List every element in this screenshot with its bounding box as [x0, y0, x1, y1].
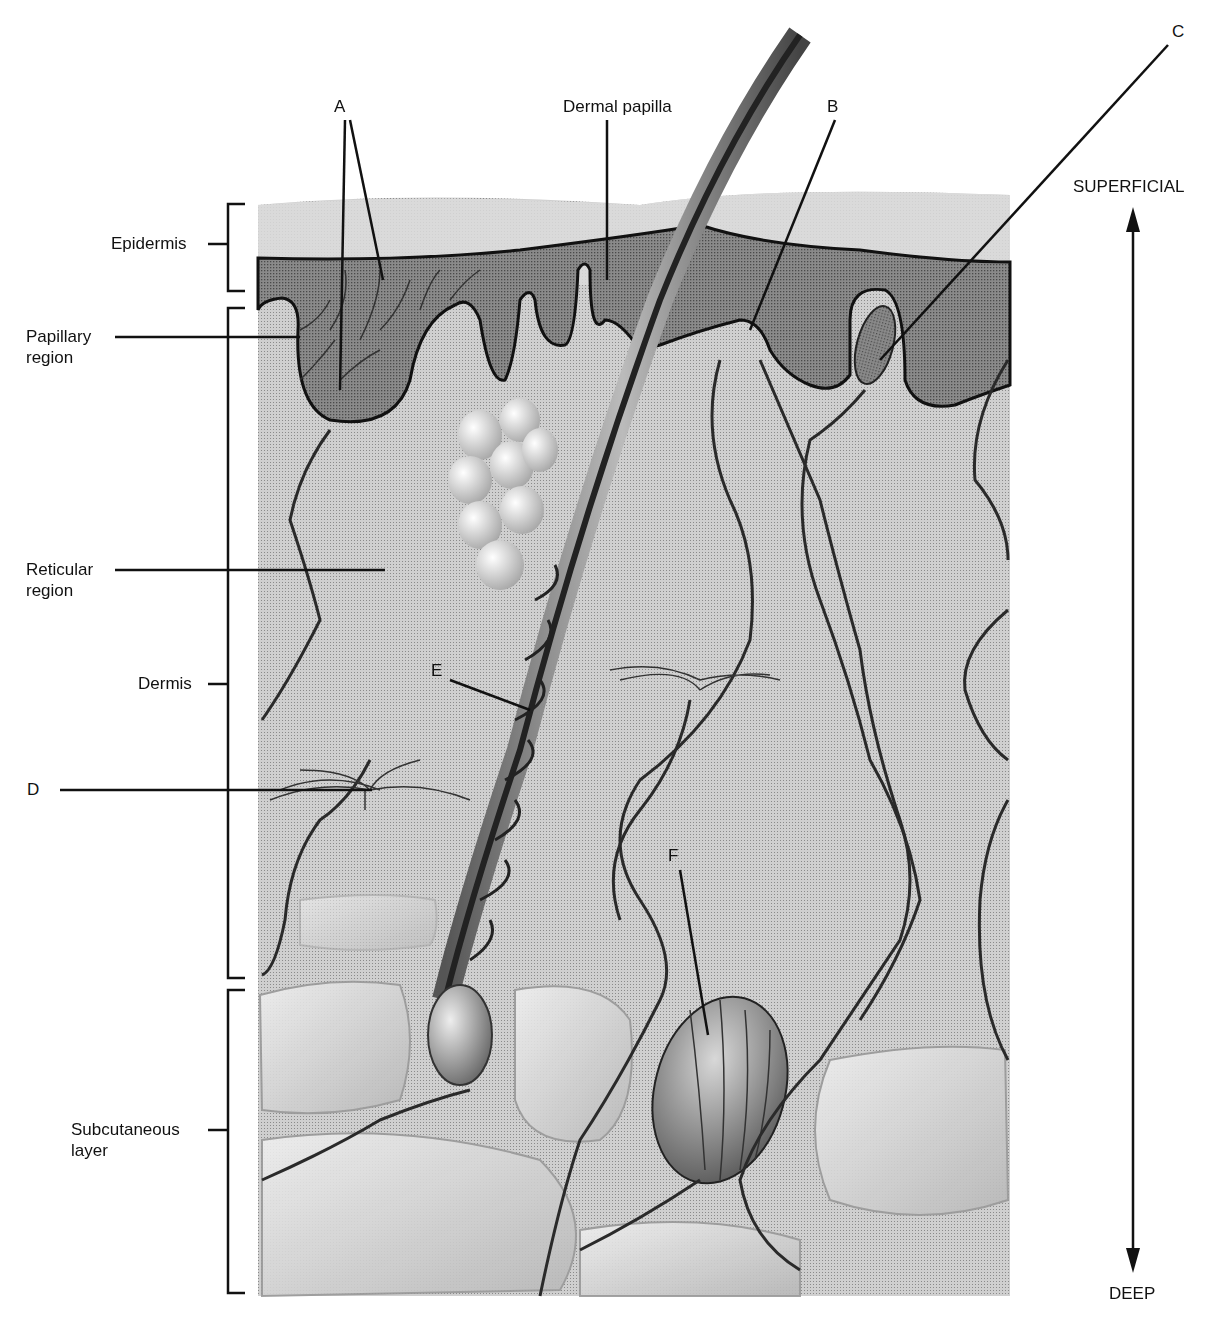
skin-illustration: [0, 0, 1230, 1323]
label-reticular-region: Reticular region: [26, 559, 93, 601]
label-d: D: [27, 780, 39, 800]
label-dermal-papilla: Dermal papilla: [563, 96, 672, 117]
label-f: F: [668, 846, 678, 866]
label-subcutaneous-layer: Subcutaneous layer: [71, 1119, 180, 1161]
label-deep: DEEP: [1109, 1283, 1155, 1304]
label-b: B: [827, 97, 838, 117]
label-e: E: [431, 661, 442, 681]
label-a: A: [334, 97, 345, 117]
label-dermis: Dermis: [138, 673, 192, 694]
label-papillary-region: Papillary region: [26, 326, 91, 368]
label-superficial: SUPERFICIAL: [1073, 176, 1184, 197]
label-epidermis: Epidermis: [111, 233, 187, 254]
label-c: C: [1172, 22, 1184, 42]
depth-axis-arrow: [1126, 207, 1140, 1273]
